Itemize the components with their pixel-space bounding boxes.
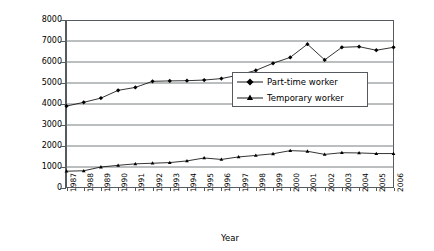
x-tick-label: 2000 [293, 173, 301, 192]
x-axis-tick [290, 188, 291, 191]
series-line [67, 151, 394, 172]
data-point-diamond [374, 48, 378, 52]
legend-label-temporary: Temporary worker [267, 93, 344, 103]
data-point-diamond [116, 88, 120, 92]
x-tick-label: 2001 [310, 173, 318, 192]
y-axis-tick-labels: 010002000300040005000600070008000 [28, 0, 62, 251]
y-tick-label: 0 [32, 184, 62, 192]
x-axis-tick [135, 188, 136, 191]
x-tick-label: 1990 [121, 173, 129, 192]
y-axis-tick [60, 188, 66, 189]
x-axis-tick [170, 188, 171, 191]
y-tick-label: 5000 [32, 79, 62, 87]
x-axis-tick [325, 188, 326, 191]
x-axis-tick [101, 188, 102, 191]
x-axis-tick [84, 188, 85, 191]
x-axis-tick [187, 188, 188, 191]
data-point-diamond [168, 79, 172, 83]
x-tick-label: 1997 [242, 173, 250, 192]
x-axis-tick [221, 188, 222, 191]
legend-item-part-time[interactable]: Part-time worker [233, 74, 367, 90]
x-axis-title: Year [66, 233, 394, 243]
triangle-marker-icon [233, 90, 267, 106]
data-point-diamond [357, 45, 361, 49]
data-point-diamond [219, 76, 223, 80]
data-point-diamond [133, 85, 137, 89]
x-axis-tick [118, 188, 119, 191]
x-tick-label: 2003 [345, 173, 353, 192]
x-axis-tick [67, 188, 68, 191]
x-axis-tick [153, 188, 154, 191]
x-axis-tick [394, 188, 395, 191]
data-point-diamond [202, 78, 206, 82]
x-tick-label: 1994 [190, 173, 198, 192]
x-tick-label: 1996 [224, 173, 232, 192]
y-tick-label: 2000 [32, 142, 62, 150]
x-tick-label: 1989 [104, 173, 112, 192]
chart-legend: Part-time worker Temporary worker [232, 72, 368, 107]
x-tick-label: 1992 [156, 173, 164, 192]
y-tick-label: 7000 [32, 37, 62, 45]
x-axis-tick [273, 188, 274, 191]
x-tick-label: 1998 [259, 173, 267, 192]
y-tick-label: 3000 [32, 121, 62, 129]
x-tick-label: 2006 [397, 173, 405, 192]
x-tick-label: 1988 [87, 173, 95, 192]
x-tick-label: 1999 [276, 173, 284, 192]
x-axis-tick [256, 188, 257, 191]
x-tick-label: 1995 [207, 173, 215, 192]
x-axis-tick [342, 188, 343, 191]
x-tick-label: 2005 [379, 173, 387, 192]
x-axis-tick [307, 188, 308, 191]
y-tick-label: 1000 [32, 163, 62, 171]
x-axis-tick [204, 188, 205, 191]
x-axis-tick-labels: 1987198819891990199119921993199419951996… [66, 190, 394, 230]
x-tick-label: 1993 [173, 173, 181, 192]
diamond-marker-icon [233, 74, 267, 90]
x-tick-label: 1991 [138, 173, 146, 192]
x-tick-label: 2002 [328, 173, 336, 192]
line-chart: Number of workers (thousands) 0100020003… [0, 0, 434, 251]
legend-label-part-time: Part-time worker [267, 77, 338, 87]
data-point-diamond [185, 79, 189, 83]
y-tick-label: 6000 [32, 58, 62, 66]
data-point-diamond [99, 96, 103, 100]
y-tick-label: 8000 [32, 16, 62, 24]
x-axis-tick [376, 188, 377, 191]
y-tick-label: 4000 [32, 100, 62, 108]
series-temporary-worker [65, 149, 396, 173]
x-axis-tick [359, 188, 360, 191]
data-point-diamond [391, 45, 395, 49]
x-tick-label: 2004 [362, 173, 370, 192]
x-tick-label: 1987 [70, 173, 78, 192]
x-axis-tick [239, 188, 240, 191]
legend-item-temporary[interactable]: Temporary worker [233, 90, 367, 106]
